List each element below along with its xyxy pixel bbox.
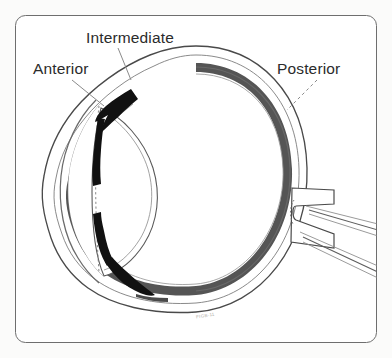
- label-posterior: Posterior: [277, 61, 340, 77]
- label-anterior: Anterior: [33, 61, 88, 77]
- label-intermediate: Intermediate: [86, 30, 174, 46]
- eye-anatomy-figure: Anterior Intermediate Posterior FIGB-11: [0, 0, 392, 358]
- eye-cross-section-diagram: [0, 0, 392, 358]
